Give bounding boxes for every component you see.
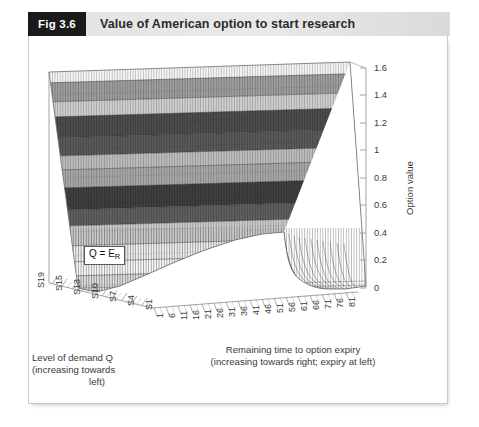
z-tick-label: 0: [374, 282, 379, 293]
x-tick-label: 6: [167, 313, 177, 318]
annotation-subscript: R: [115, 252, 120, 261]
x-tick-label: 76: [335, 298, 345, 308]
z-tick-label: 1.6: [374, 62, 387, 73]
y-tick-label: S1: [144, 299, 154, 310]
x-tick-label: 31: [227, 307, 237, 317]
z-tick-label: 0.2: [374, 254, 387, 265]
y-tick-label: S19: [36, 272, 46, 288]
z-tick-label: 0.8: [374, 172, 387, 183]
z-tick-label: 1: [374, 144, 379, 155]
y-axis-title-line3: left): [32, 376, 162, 388]
x-tick-label: 71: [323, 299, 333, 309]
x-tick-label: 41: [251, 305, 261, 315]
annotation-q-equals-er: Q = ER: [84, 246, 125, 265]
x-tick-label: 11: [179, 311, 189, 320]
annotation-text: Q = E: [89, 248, 115, 259]
figure-title: Value of American option to start resear…: [100, 12, 355, 36]
x-tick-label: 21: [203, 309, 213, 319]
y-tick-label: S15: [54, 275, 64, 291]
z-tick-label: 1.2: [374, 117, 387, 128]
y-axis-title-line1: Level of demand Q: [32, 352, 162, 364]
y-tick-label: S13: [72, 279, 82, 295]
x-tick-label: 26: [215, 308, 225, 318]
z-tick-label: 0.6: [374, 199, 387, 210]
x-axis-title-line2: (increasing towards right; expiry at lef…: [178, 356, 408, 368]
x-tick-label: 66: [311, 300, 321, 310]
x-tick-label: 61: [299, 301, 309, 311]
x-tick-label: 16: [191, 310, 201, 320]
x-tick-label: 81: [347, 297, 357, 307]
z-tick-label: 1.4: [374, 89, 387, 100]
x-tick-label: 1: [155, 313, 165, 318]
figure-number-badge: Fig 3.6: [28, 12, 86, 36]
x-axis-title-line1: Remaining time to option expiry: [193, 344, 393, 356]
z-tick-label: 0.4: [374, 227, 387, 238]
y-tick-label: S4: [126, 295, 136, 306]
y-tick-label: S7: [108, 291, 118, 302]
x-tick-label: 56: [287, 302, 297, 312]
y-tick-label: S10: [90, 283, 100, 299]
x-tick-label: 46: [263, 304, 273, 314]
figure-container: Fig 3.6 Value of American option to star…: [0, 0, 479, 427]
y-axis-title-line2: (increasing towards: [32, 364, 172, 376]
x-tick-label: 51: [275, 303, 285, 313]
x-tick-label: 36: [239, 306, 249, 316]
z-axis-title: Option value: [404, 161, 415, 215]
